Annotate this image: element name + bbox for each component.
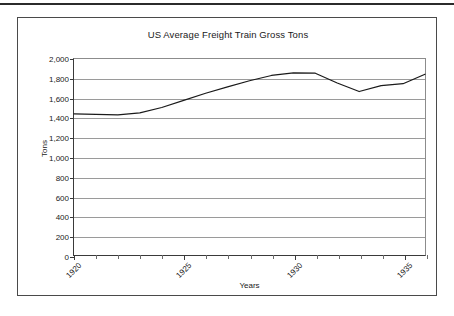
x-tick-label: 1925 <box>175 261 194 280</box>
x-tick-mark <box>74 255 75 260</box>
x-tick-mark <box>140 255 141 259</box>
y-tick-label: 600 <box>56 193 69 202</box>
y-tick-label: 1,200 <box>49 134 69 143</box>
x-tick-mark <box>162 255 163 259</box>
plot-area: 2,0001,8001,6001,4001,2001,0008006004002… <box>73 58 426 256</box>
x-tick-mark <box>295 255 296 260</box>
x-tick-mark <box>427 255 428 259</box>
x-axis-title: Years <box>73 281 426 290</box>
x-tick-mark <box>118 255 119 259</box>
y-tick-label: 2,000 <box>49 55 69 64</box>
x-tick-mark <box>383 255 384 259</box>
x-tick-mark <box>317 255 318 259</box>
x-tick-mark <box>206 255 207 259</box>
y-tick-label: 0 <box>65 253 69 262</box>
x-tick-label: 1935 <box>395 261 414 280</box>
x-tick-mark <box>361 255 362 259</box>
chart-title: US Average Freight Train Gross Tons <box>18 29 438 40</box>
x-tick-mark <box>184 255 185 260</box>
y-axis-title: Tons <box>40 140 49 157</box>
x-tick-label: 1920 <box>64 261 83 280</box>
x-tick-mark <box>96 255 97 259</box>
y-tick-label: 400 <box>56 213 69 222</box>
y-tick-label: 800 <box>56 173 69 182</box>
y-tick-label: 1,800 <box>49 74 69 83</box>
line-series <box>74 59 425 255</box>
x-tick-mark <box>228 255 229 259</box>
chart-frame: US Average Freight Train Gross Tons Tons… <box>17 17 437 296</box>
x-tick-mark <box>339 255 340 259</box>
x-tick-label: 1930 <box>285 261 304 280</box>
x-tick-mark <box>405 255 406 260</box>
y-tick-label: 1,400 <box>49 114 69 123</box>
x-tick-mark <box>251 255 252 259</box>
x-tick-mark <box>273 255 274 259</box>
y-tick-label: 1,000 <box>49 154 69 163</box>
page-top-rule <box>0 3 454 5</box>
y-tick-label: 1,600 <box>49 94 69 103</box>
y-tick-label: 200 <box>56 233 69 242</box>
